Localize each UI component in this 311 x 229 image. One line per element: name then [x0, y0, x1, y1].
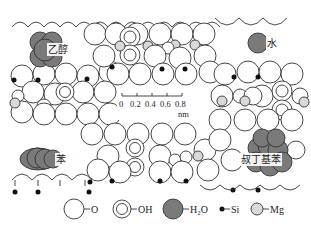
sepiolite-structure-diagram: 乙醇 水 苯 叔丁基苯 0 0.2 0.4 0.6 0.8 nm O — [0, 0, 311, 229]
scale-tick-1: 0.2 — [130, 99, 141, 109]
legend: O OH H₂O Si Mg — [64, 199, 284, 219]
scale-tick-4: 0.8 — [175, 99, 186, 109]
scale-tick-3: 0.6 — [160, 99, 171, 109]
benzene-molecule: 苯 — [20, 148, 69, 170]
legend-item-oxygen: O — [64, 199, 98, 219]
legend-item-magnesium: Mg — [251, 203, 284, 215]
upper-left-ribbon — [10, 61, 121, 125]
top-ribbon-edge — [12, 18, 287, 27]
benzene-label: 苯 — [56, 153, 66, 165]
legend-item-water: H₂O — [163, 199, 208, 219]
oxygen-symbol-icon — [64, 199, 84, 219]
scale-bar: 0 0.2 0.4 0.6 0.8 nm — [117, 88, 203, 120]
ethanol-label: 乙醇 — [48, 43, 68, 55]
scale-tick-0: 0 — [119, 99, 123, 109]
water-molecule: 水 — [248, 33, 278, 53]
svg-text:OH: OH — [138, 204, 152, 215]
ethanol-molecule: 乙醇 — [30, 32, 69, 67]
magnesium-symbol-icon — [251, 203, 263, 215]
svg-text:H₂O: H₂O — [190, 204, 208, 215]
middle-right-ribbon — [209, 61, 309, 131]
legend-item-hydroxyl: OH — [113, 200, 152, 218]
scale-unit: nm — [178, 109, 189, 119]
svg-text:O: O — [91, 204, 98, 215]
lower-middle-ribbon — [81, 123, 219, 185]
water-symbol-icon — [163, 199, 183, 219]
tert-butylbenzene-label: 叔丁基苯 — [241, 153, 281, 165]
tert-butylbenzene-molecule: 叔丁基苯 — [240, 129, 292, 176]
scale-tick-2: 0.4 — [145, 99, 156, 109]
svg-text:Mg: Mg — [270, 204, 284, 215]
legend-item-silicon: Si — [220, 204, 240, 215]
water-label: 水 — [267, 38, 277, 49]
silicon-symbol-icon — [220, 207, 225, 212]
svg-text:Si: Si — [231, 204, 240, 215]
